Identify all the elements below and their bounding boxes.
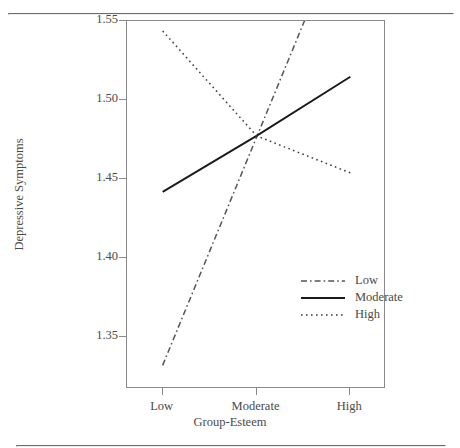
legend-label: High bbox=[346, 307, 380, 322]
x-tick-label: High bbox=[289, 399, 409, 414]
legend-swatch-solid-icon bbox=[300, 292, 346, 304]
legend: LowModerateHigh bbox=[300, 272, 412, 323]
legend-item-high: High bbox=[300, 306, 412, 323]
x-tick-mark bbox=[349, 388, 350, 395]
y-tick-label: 1.55 bbox=[0, 12, 118, 28]
y-tick-mark bbox=[119, 336, 126, 337]
y-tick-label: 1.35 bbox=[0, 328, 118, 344]
legend-item-moderate: Moderate bbox=[300, 289, 412, 306]
y-tick-mark bbox=[119, 257, 126, 258]
legend-item-low: Low bbox=[300, 272, 412, 289]
y-tick-mark bbox=[119, 99, 126, 100]
x-tick-mark bbox=[162, 388, 163, 395]
legend-swatch-dash-dot-icon bbox=[300, 275, 346, 287]
legend-swatch-dotted-icon bbox=[300, 309, 346, 321]
series-line-high bbox=[163, 31, 351, 173]
series-line-moderate bbox=[163, 77, 351, 192]
legend-label: Low bbox=[346, 273, 378, 288]
y-tick-label: 1.40 bbox=[0, 249, 118, 265]
y-tick-label: 1.45 bbox=[0, 170, 118, 186]
x-axis-title: Group-Esteem bbox=[0, 415, 460, 430]
y-tick-mark bbox=[119, 20, 126, 21]
plot-area bbox=[126, 20, 385, 388]
plot-lines bbox=[127, 21, 385, 388]
chart-figure: Depressive Symptoms 1.351.401.451.501.55… bbox=[0, 0, 460, 448]
y-tick-label: 1.50 bbox=[0, 91, 118, 107]
x-tick-mark bbox=[256, 388, 257, 395]
legend-label: Moderate bbox=[346, 290, 403, 305]
y-axis-title: Depressive Symptoms bbox=[12, 138, 27, 250]
y-tick-mark bbox=[119, 178, 126, 179]
